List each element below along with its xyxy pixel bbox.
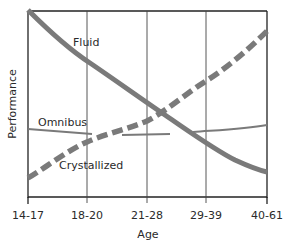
x-tick-label: 21-28 [131, 209, 163, 222]
y-axis-label: Performance [6, 69, 19, 139]
omnibus-line [28, 129, 92, 134]
x-tick-label: 29-39 [190, 209, 222, 222]
omnibus-line [193, 125, 267, 132]
x-tick-label: 14-17 [12, 209, 44, 222]
omnibus-line [122, 134, 170, 135]
chart: Fluid Omnibus Crystallized 14-17 18-20 2… [0, 0, 290, 247]
omnibus-label: Omnibus [38, 116, 87, 129]
x-tick-label: 18-20 [71, 209, 103, 222]
fluid-line [28, 10, 267, 172]
x-tick-label: 40-61 [251, 209, 283, 222]
crystallized-label: Crystallized [59, 159, 123, 172]
x-axis-label: Age [137, 228, 159, 241]
fluid-label: Fluid [73, 36, 99, 49]
